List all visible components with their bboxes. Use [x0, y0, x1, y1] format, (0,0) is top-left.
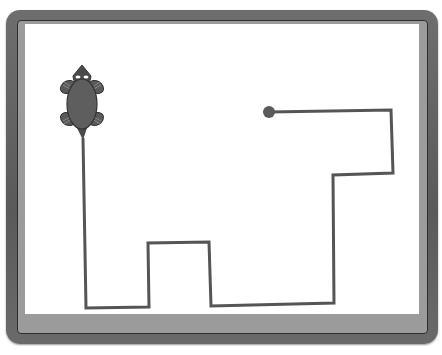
turtle-icon — [58, 65, 106, 140]
turtle-drawing — [0, 0, 442, 355]
path-end-dot — [263, 106, 275, 118]
turtle-path — [83, 110, 393, 308]
